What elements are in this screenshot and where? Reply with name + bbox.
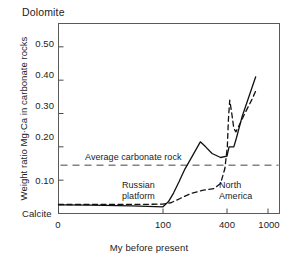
plot-canvas — [0, 0, 298, 262]
series-line-north-america — [59, 90, 257, 205]
plot-frame — [59, 24, 280, 214]
series-line-russian-platform — [59, 77, 256, 207]
chart-figure: Dolomite Calcite Weight ratio Mg·Ca in c… — [0, 0, 298, 262]
